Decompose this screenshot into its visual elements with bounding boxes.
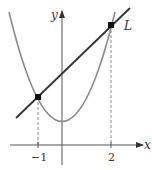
tick-label-2: 2 bbox=[108, 151, 115, 164]
y-axis-label: y bbox=[50, 8, 58, 22]
intersection-point-neg1 bbox=[35, 94, 41, 100]
diagram: x y L −1 2 bbox=[0, 0, 152, 170]
intersection-point-2 bbox=[108, 22, 114, 28]
x-axis-label: x bbox=[144, 138, 151, 152]
line-L-label: L bbox=[123, 19, 132, 33]
tick-label-neg1: −1 bbox=[31, 151, 47, 164]
